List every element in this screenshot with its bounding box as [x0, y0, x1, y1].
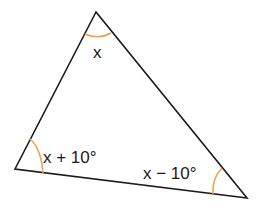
- angle-label-left: x + 10°: [43, 148, 97, 167]
- triangle-diagram: x x + 10° x − 10°: [0, 0, 260, 212]
- triangle-svg: x x + 10° x − 10°: [0, 0, 260, 212]
- angle-arc-left: [30, 139, 43, 173]
- angle-arc-right: [213, 168, 222, 194]
- triangle-outline: [15, 12, 247, 198]
- angle-label-top: x: [93, 43, 102, 62]
- angle-label-right: x − 10°: [143, 164, 197, 183]
- angle-arc-top: [85, 33, 111, 37]
